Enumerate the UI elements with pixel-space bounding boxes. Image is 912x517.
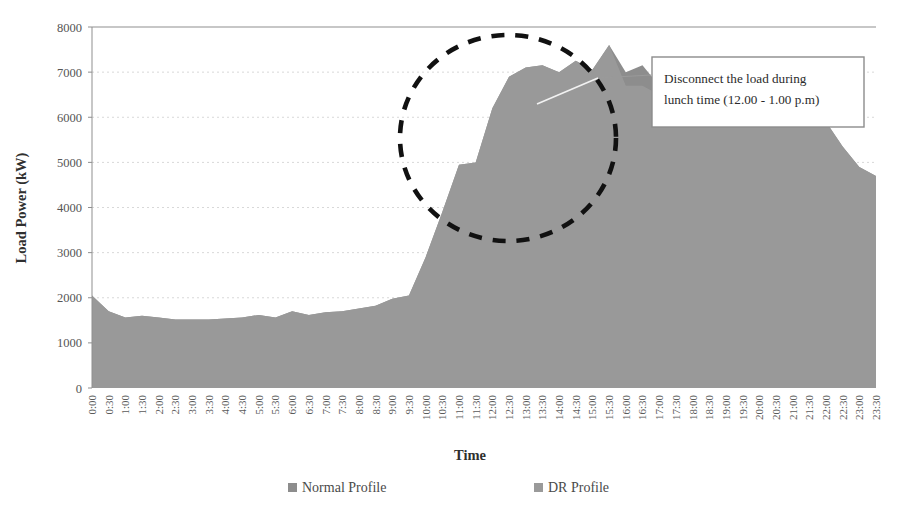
y-axis-title: Load Power (kW) xyxy=(13,152,30,263)
x-tick-label: 5:30 xyxy=(269,395,281,415)
x-tick-label: 15:00 xyxy=(586,395,598,421)
x-tick-label: 9:00 xyxy=(386,395,398,415)
x-tick-label: 10:30 xyxy=(436,395,448,421)
x-tick-label: 4:00 xyxy=(219,395,231,415)
annotation-line-2: lunch time (12.00 - 1.00 p.m) xyxy=(664,92,819,107)
x-tick-label: 21:00 xyxy=(787,395,799,421)
annotation-line-1: Disconnect the load during xyxy=(664,71,807,86)
x-tick-label: 4:30 xyxy=(236,395,248,415)
x-tick-label: 21:30 xyxy=(803,395,815,421)
x-tick-label: 20:30 xyxy=(770,395,782,421)
x-tick-label: 13:30 xyxy=(536,395,548,421)
legend-label: DR Profile xyxy=(548,480,609,495)
y-tick-label: 1000 xyxy=(57,336,82,350)
x-tick-label: 17:00 xyxy=(653,395,665,421)
x-axis-title: Time xyxy=(454,447,487,463)
chart-figure: 800070006000500040003000200010000 0:000:… xyxy=(0,0,912,517)
x-tick-label: 11:30 xyxy=(470,395,482,420)
x-tick-label: 22:30 xyxy=(837,395,849,421)
annotation-callout: Disconnect the load during lunch time (1… xyxy=(652,57,864,127)
x-tick-label: 9:30 xyxy=(403,395,415,415)
x-tick-label: 8:00 xyxy=(353,395,365,415)
x-tick-label: 22:00 xyxy=(820,395,832,421)
x-tick-label: 12:30 xyxy=(503,395,515,421)
x-tick-label: 7:00 xyxy=(320,395,332,415)
x-tick-label: 2:00 xyxy=(153,395,165,415)
y-tick-label: 6000 xyxy=(57,111,82,125)
x-tick-label: 6:30 xyxy=(303,395,315,415)
legend-label: Normal Profile xyxy=(302,480,386,495)
x-tick-label: 16:00 xyxy=(620,395,632,421)
y-tick-label: 0 xyxy=(76,382,82,396)
x-tick-label: 2:30 xyxy=(169,395,181,415)
x-tick-label: 1:30 xyxy=(136,395,148,415)
x-tick-label: 11:00 xyxy=(453,395,465,420)
x-tick-label: 0:30 xyxy=(103,395,115,415)
x-tick-label: 0:00 xyxy=(86,395,98,415)
x-tick-label: 14:30 xyxy=(570,395,582,421)
x-tick-label: 3:30 xyxy=(203,395,215,415)
x-tick-label: 14:00 xyxy=(553,395,565,421)
y-tick-label: 7000 xyxy=(57,66,82,80)
y-tick-label: 4000 xyxy=(57,201,82,215)
x-tick-label: 17:30 xyxy=(670,395,682,421)
x-tick-label: 23:30 xyxy=(870,395,882,421)
y-tick-label: 5000 xyxy=(57,156,82,170)
x-tick-label: 15:30 xyxy=(603,395,615,421)
x-tick-label: 20:00 xyxy=(753,395,765,421)
x-tick-label: 5:00 xyxy=(253,395,265,415)
x-tick-label: 12:00 xyxy=(486,395,498,421)
x-tick-label: 23:00 xyxy=(853,395,865,421)
y-tick-label: 2000 xyxy=(57,291,82,305)
x-tick-label: 16:30 xyxy=(636,395,648,421)
x-tick-label: 10:00 xyxy=(420,395,432,421)
x-tick-label: 13:00 xyxy=(520,395,532,421)
x-tick-label: 19:00 xyxy=(720,395,732,421)
x-tick-label: 3:00 xyxy=(186,395,198,415)
x-tick-label: 7:30 xyxy=(336,395,348,415)
legend-swatch xyxy=(288,483,297,492)
x-tick-label: 18:30 xyxy=(703,395,715,421)
x-tick-label: 8:30 xyxy=(370,395,382,415)
x-tick-label: 6:00 xyxy=(286,395,298,415)
load-profile-chart: 800070006000500040003000200010000 0:000:… xyxy=(0,0,912,517)
y-tick-label: 3000 xyxy=(57,246,82,260)
legend-swatch xyxy=(534,483,543,492)
x-tick-label: 1:00 xyxy=(119,395,131,415)
x-tick-label: 19:30 xyxy=(737,395,749,421)
x-tick-label: 18:00 xyxy=(687,395,699,421)
y-tick-label: 8000 xyxy=(57,21,82,35)
